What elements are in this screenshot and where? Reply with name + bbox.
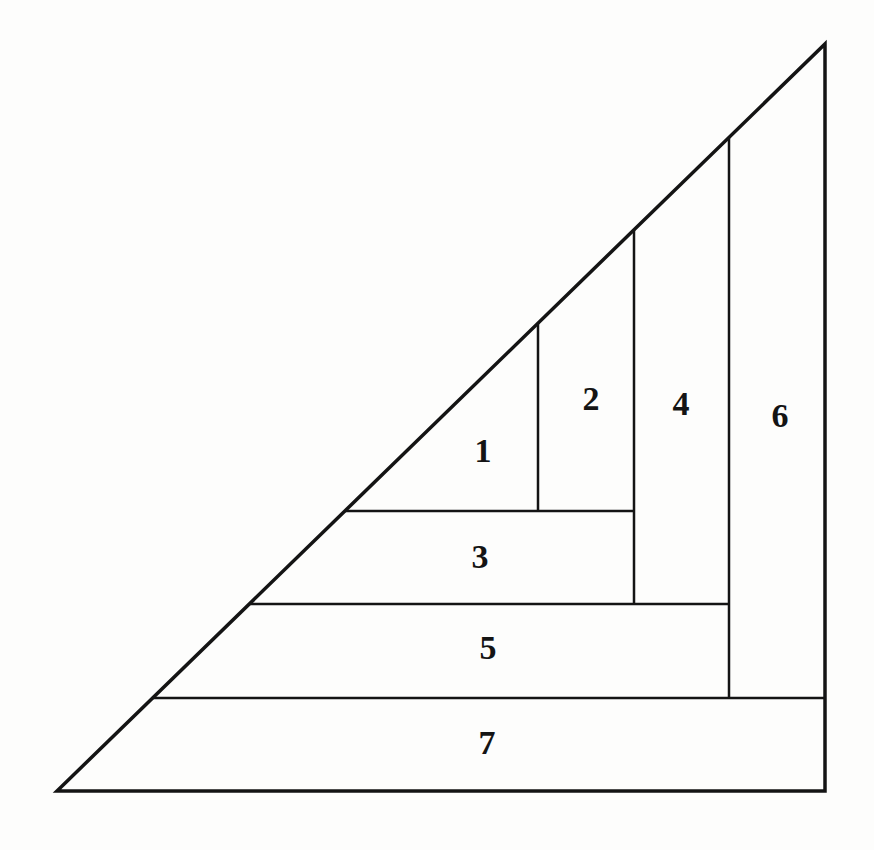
region-label-3: 3 — [472, 538, 489, 575]
region-label-5: 5 — [480, 629, 497, 666]
region-label-2: 2 — [583, 380, 600, 417]
triangle-dissection-svg: 1234567 — [0, 0, 874, 850]
triangle-dissection-figure: 1234567 — [0, 0, 874, 850]
region-label-7: 7 — [479, 724, 496, 761]
region-label-6: 6 — [772, 397, 789, 434]
triangle-outline — [57, 44, 825, 791]
region-label-4: 4 — [673, 385, 690, 422]
region-label-1: 1 — [475, 432, 492, 469]
